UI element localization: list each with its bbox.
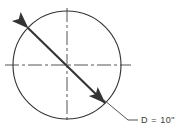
diameter-label: D = 10" xyxy=(141,115,175,125)
circle-diameter-diagram: D = 10" xyxy=(0,0,179,140)
diagram-canvas: D = 10" xyxy=(0,0,179,140)
